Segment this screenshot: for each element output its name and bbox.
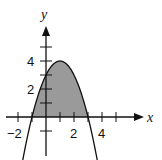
x-tick-label-2: 2: [70, 127, 77, 140]
y-axis-label: y: [41, 8, 47, 22]
y-tick-label-2: 2: [27, 83, 34, 96]
y-tick-label-4: 4: [27, 55, 34, 68]
x-tick-label-4: 4: [98, 127, 105, 140]
parabola-diagram: y x −2 2 4 2 4: [0, 0, 162, 160]
plot-area: [0, 0, 162, 160]
x-axis-label: x: [147, 111, 153, 125]
y-axis-arrow-icon: [42, 26, 50, 36]
x-tick-label-neg2: −2: [7, 127, 22, 140]
x-axis-arrow-icon: [134, 113, 144, 121]
